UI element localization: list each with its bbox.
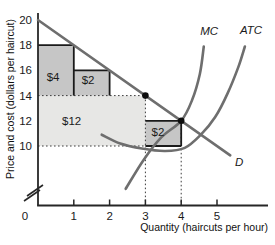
surplus-label-2: $2 <box>82 74 95 86</box>
y-axis-title: Price and cost (dollars per haircut) <box>4 9 16 189</box>
surplus-label-0: $12 <box>62 115 81 127</box>
d-curve-label: D <box>235 156 243 168</box>
surplus-rect-0 <box>38 96 145 146</box>
x-axis-title: Quantity (haircuts per hour) <box>0 221 268 233</box>
surplus-label-3: $2 <box>152 126 165 138</box>
y-tick-label: 18 <box>19 39 32 51</box>
economics-figure: DMCATC$12$4$2$2101214161820012345 Price … <box>0 0 275 245</box>
y-tick-label: 12 <box>19 115 32 127</box>
chart-svg: DMCATC$12$4$2$2101214161820012345 <box>0 0 275 245</box>
y-tick-label: 16 <box>19 64 32 76</box>
atc-curve-label: ATC <box>239 24 263 36</box>
data-point <box>142 92 149 99</box>
y-tick-label: 14 <box>19 90 32 102</box>
y-tick-label: 10 <box>19 140 32 152</box>
y-tick-label: 20 <box>19 14 32 26</box>
mc-curve-label: MC <box>200 25 219 37</box>
surplus-label-1: $4 <box>47 71 60 83</box>
data-point <box>178 118 185 125</box>
